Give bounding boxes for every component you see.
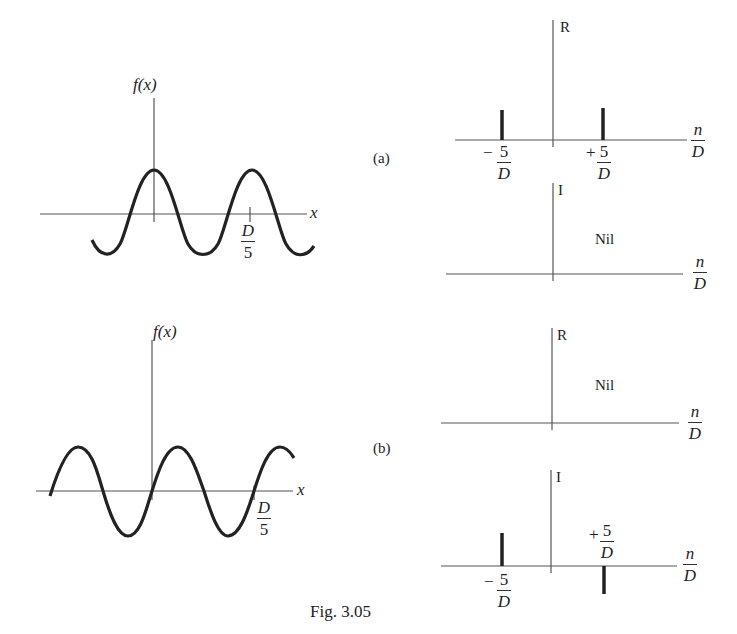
panel-b-real-x-label: n D <box>688 403 702 443</box>
panel-a-xlabel: x <box>310 203 318 223</box>
panel-b-signal-plot <box>36 340 294 536</box>
neg-sign: − <box>484 572 494 592</box>
panel-a-tag: (a) <box>373 150 390 167</box>
panel-b-ylabel: f(x) <box>153 322 177 342</box>
panel-a-imag-x-label: n D <box>693 253 707 293</box>
panel-a-imag-spectrum <box>446 183 683 281</box>
panel-b-real-nil-note: Nil <box>595 377 614 394</box>
panel-a-tick-label: D 5 <box>241 222 255 262</box>
panel-a-imag-nil-note: Nil <box>595 231 614 248</box>
panel-b-xlabel: x <box>297 480 305 500</box>
panel-a-ylabel: f(x) <box>133 75 157 95</box>
panel-b-real-axis-label: R <box>557 327 567 344</box>
panel-b-pos-freq-label: 5 D <box>600 522 614 562</box>
panel-a-real-axis-label: R <box>560 19 570 36</box>
panel-b-tag: (b) <box>373 440 391 457</box>
figure-graphics <box>0 0 737 634</box>
panel-b-imag-x-label: n D <box>683 545 697 585</box>
panel-a-signal-plot <box>40 98 314 255</box>
panel-b-imag-axis-label: I <box>556 469 561 486</box>
panel-b-neg-freq-label: 5 D <box>497 571 511 611</box>
panel-b-tick-label: D 5 <box>257 499 271 539</box>
panel-a-neg-freq-label: 5 D <box>497 143 511 183</box>
pos-sign: + <box>586 143 596 163</box>
figure-caption: Fig. 3.05 <box>310 602 371 622</box>
cosine-curve <box>92 170 314 255</box>
panel-a-imag-axis-label: I <box>558 182 563 199</box>
panel-a-real-spectrum <box>455 20 687 147</box>
pos-sign: + <box>589 525 599 545</box>
neg-sign: − <box>483 143 493 163</box>
panel-b-imag-spectrum <box>441 470 677 594</box>
panel-a-real-x-label: n D <box>691 121 705 161</box>
panel-a-pos-freq-label: 5 D <box>597 143 611 183</box>
